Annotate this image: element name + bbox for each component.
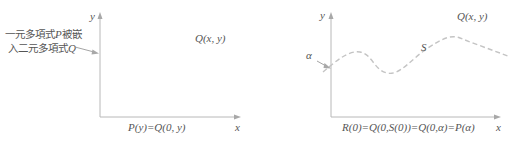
left-function-label: Q(x, y) [195,32,226,45]
polynomial-embedding-diagram: y x Q(x, y) P(y)=Q(0, y) 一元多項式P被嵌 入二元多項式… [0,0,508,143]
annotation-line1-prefix: 一元多項式 [5,28,56,40]
annotation-line1-suffix: 被嵌 [62,28,83,40]
left-x-axis-label: x [234,121,240,133]
right-function-label: Q(x, y) [457,10,488,23]
annotation-line2-prefix: 入二元多項式 [8,42,69,54]
annotation-line2-var: Q [68,42,76,54]
left-y-axis-label: y [89,10,95,22]
right-y-axis-arrow-icon [329,12,334,19]
right-bottom-equation: R(0)=Q(0,S(0))=Q(0,α)=P(α) [341,121,475,134]
right-panel: y x Q(x, y) S α R(0)=Q(0,S(0))=Q(0,α)=P(… [306,9,508,134]
annotation-pointer-arrow-icon [92,50,100,55]
curve-s-label: S [421,41,427,53]
left-x-axis-arrow-icon [234,115,241,120]
embedding-annotation-line1: 一元多項式P被嵌 [5,28,83,40]
curve-s [323,37,508,74]
left-y-axis-arrow-icon [98,12,103,19]
right-x-axis-arrow-icon [494,115,501,120]
annotation-pointer-line [75,47,94,52]
embedding-annotation-line2: 入二元多項式Q [8,42,76,54]
right-x-axis-label: x [495,121,501,133]
left-panel: y x Q(x, y) P(y)=Q(0, y) 一元多項式P被嵌 入二元多項式… [5,10,241,134]
left-bottom-equation: P(y)=Q(0, y) [127,121,186,134]
alpha-label: α [306,49,312,61]
right-y-axis-label: y [319,9,325,21]
